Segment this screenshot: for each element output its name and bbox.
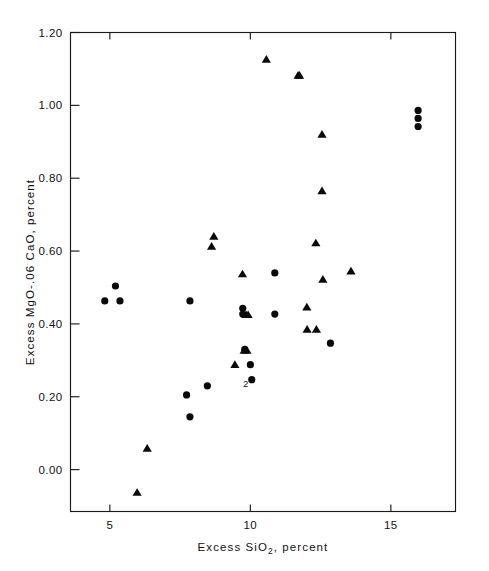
- data-point-circle: [415, 123, 422, 130]
- data-point-triangle: [262, 55, 271, 63]
- data-point-circle: [112, 282, 119, 289]
- y-tick-label: 0.00: [39, 464, 63, 476]
- data-point-triangle: [318, 275, 327, 283]
- y-tick-label: 1.00: [39, 99, 63, 111]
- point-annotation: 2: [243, 378, 248, 389]
- data-points-layer: [101, 55, 422, 496]
- y-axis-title: Excess MgO-.06 CaO, percent: [24, 179, 36, 365]
- data-point-circle: [186, 297, 193, 304]
- plot-frame: [71, 33, 456, 512]
- y-tick-label: 0.40: [39, 318, 63, 330]
- data-point-triangle: [311, 239, 320, 247]
- figure-container: 51015 0.000.200.400.600.801.001.20 2 Exc…: [0, 0, 489, 571]
- x-axis-title: Excess SiO2, percent: [198, 541, 329, 556]
- data-point-circle: [186, 413, 193, 420]
- data-point-triangle: [209, 232, 218, 240]
- data-point-circle: [204, 382, 211, 389]
- data-point-triangle: [143, 444, 152, 452]
- data-point-circle: [248, 376, 255, 383]
- data-point-circle: [271, 310, 278, 317]
- y-axis-ticks: [71, 33, 80, 470]
- data-point-circle: [271, 269, 278, 276]
- data-point-circle: [101, 297, 108, 304]
- data-point-triangle: [302, 303, 311, 311]
- scatter-plot: 51015 0.000.200.400.600.801.001.20 2 Exc…: [0, 0, 489, 571]
- y-axis-tick-labels: 0.000.200.400.600.801.001.20: [39, 27, 63, 476]
- data-point-triangle: [312, 325, 321, 333]
- data-point-circle: [183, 391, 190, 398]
- data-point-triangle: [133, 488, 142, 496]
- data-point-circle: [327, 340, 334, 347]
- data-point-triangle: [317, 187, 326, 195]
- data-point-circle: [247, 361, 254, 368]
- x-axis-title-text: Excess SiO2, percent: [198, 541, 329, 556]
- x-axis-tick-labels: 51015: [106, 519, 397, 531]
- data-point-triangle: [317, 130, 326, 138]
- y-tick-label: 1.20: [39, 27, 63, 39]
- x-tick-label: 15: [384, 519, 398, 531]
- data-point-circle: [415, 115, 422, 122]
- y-axis-title-text: Excess MgO-.06 CaO, percent: [24, 179, 36, 365]
- y-tick-label: 0.60: [39, 245, 63, 257]
- data-point-triangle: [230, 360, 239, 368]
- data-point-triangle: [303, 325, 312, 333]
- x-tick-label: 10: [244, 519, 258, 531]
- data-point-circle: [415, 107, 422, 114]
- y-tick-label: 0.80: [39, 172, 63, 184]
- x-tick-label: 5: [106, 519, 113, 531]
- y-tick-label: 0.20: [39, 391, 63, 403]
- annotations-layer: 2: [243, 378, 248, 389]
- data-point-triangle: [346, 267, 355, 275]
- data-point-triangle: [238, 270, 247, 278]
- data-point-circle: [116, 297, 123, 304]
- data-point-triangle: [207, 242, 216, 250]
